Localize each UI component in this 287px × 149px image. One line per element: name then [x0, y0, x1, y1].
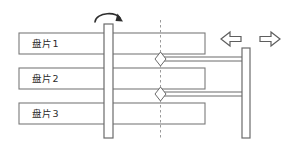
- actuator-arm-lower: [160, 92, 244, 96]
- rotation-arrow: [95, 14, 123, 23]
- diagram-canvas: 盘片1 盘片2 盘片3: [0, 0, 287, 149]
- seek-arrow-left: [221, 32, 241, 46]
- disk-drive-diagram: 盘片1 盘片2 盘片3: [0, 0, 287, 149]
- platter-label-3: 盘片3: [32, 108, 59, 119]
- actuator-arm-upper: [160, 57, 244, 61]
- seek-direction-arrows: [221, 32, 280, 46]
- seek-arrow-right: [260, 32, 280, 46]
- actuator-post: [242, 48, 250, 138]
- platter-label-1: 盘片1: [32, 38, 59, 49]
- spindle-shaft: [104, 24, 113, 138]
- platter-label-2: 盘片2: [32, 73, 59, 84]
